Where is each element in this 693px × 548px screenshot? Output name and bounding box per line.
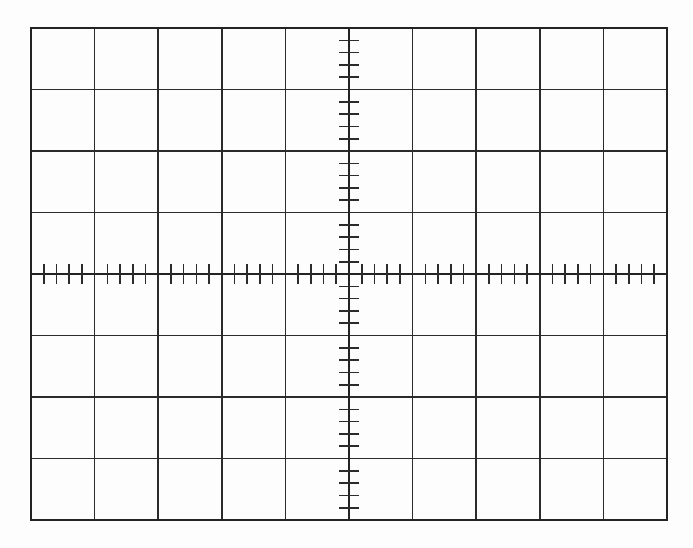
graticule-page — [0, 0, 693, 548]
graticule-canvas — [0, 0, 693, 548]
